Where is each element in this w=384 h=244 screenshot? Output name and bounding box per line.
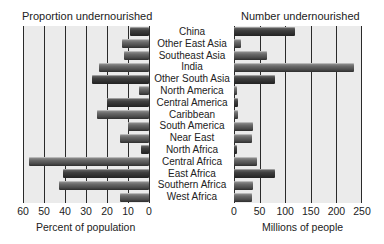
tick-label: 0: [146, 205, 152, 217]
region-labels: ChinaOther East AsiaSoutheast AsiaIndiaO…: [150, 26, 234, 203]
tick-label: 0: [231, 205, 237, 217]
gridline: [361, 26, 362, 203]
bar-percent: [99, 63, 149, 72]
region-label: India: [150, 61, 234, 73]
bar-percent: [29, 157, 149, 166]
bar-percent: [128, 122, 149, 131]
gridline: [44, 26, 45, 203]
bar-millions: [234, 27, 295, 36]
bar-percent: [59, 181, 149, 190]
bar-percent: [124, 51, 149, 60]
bar-millions: [234, 75, 275, 84]
bar-millions: [234, 122, 253, 131]
bar-millions: [234, 181, 253, 190]
region-label: North Africa: [150, 144, 234, 156]
right-axis-title: Millions of people: [262, 221, 343, 233]
gridline: [311, 26, 312, 203]
bar-millions: [234, 169, 275, 178]
bar-percent: [63, 169, 149, 178]
region-label: Caribbean: [150, 109, 234, 121]
bar-percent: [92, 75, 149, 84]
bar-percent: [141, 145, 149, 154]
bar-millions: [234, 145, 237, 154]
region-label: East Africa: [150, 168, 234, 180]
bar-millions: [234, 63, 354, 72]
right-chart-title: Number undernourished: [241, 10, 360, 22]
bar-percent: [97, 110, 150, 119]
bar-millions: [234, 98, 238, 107]
tick-label: 200: [328, 205, 346, 217]
tick-label: 50: [254, 205, 266, 217]
tick-label: 60: [17, 205, 29, 217]
gridline: [336, 26, 337, 203]
bar-percent: [130, 27, 149, 36]
bar-millions: [234, 193, 252, 202]
bar-millions: [234, 51, 267, 60]
region-label: West Africa: [150, 191, 234, 203]
tick-label: 20: [101, 205, 113, 217]
left-axis-title: Percent of population: [36, 221, 135, 233]
tick-label: 30: [80, 205, 92, 217]
region-label: North America: [150, 85, 234, 97]
gridline: [285, 26, 286, 203]
left-plot-area: [23, 26, 149, 203]
bar-percent: [120, 134, 149, 143]
bar-percent: [139, 86, 150, 95]
region-label: China: [150, 26, 234, 38]
tick-label: 10: [122, 205, 134, 217]
left-chart-title: Proportion undernourished: [22, 10, 152, 22]
tick-label: 40: [59, 205, 71, 217]
bar-millions: [234, 157, 257, 166]
bar-percent: [107, 98, 149, 107]
bar-millions: [234, 39, 241, 48]
bar-millions: [234, 110, 238, 119]
region-label: Other South Asia: [150, 73, 234, 85]
region-label: Other East Asia: [150, 38, 234, 50]
bar-millions: [234, 86, 237, 95]
tick-label: 50: [38, 205, 50, 217]
region-label: South America: [150, 120, 234, 132]
tick-label: 250: [353, 205, 371, 217]
right-plot-area: [234, 26, 362, 203]
gridline: [23, 26, 24, 203]
bar-percent: [120, 193, 149, 202]
region-label: Central Africa: [150, 156, 234, 168]
bar-percent: [122, 39, 149, 48]
tick-label: 150: [302, 205, 320, 217]
bar-millions: [234, 134, 252, 143]
region-label: Near East: [150, 132, 234, 144]
region-label: Southeast Asia: [150, 50, 234, 62]
region-label: Southern Africa: [150, 179, 234, 191]
tick-label: 100: [276, 205, 294, 217]
region-label: Central America: [150, 97, 234, 109]
